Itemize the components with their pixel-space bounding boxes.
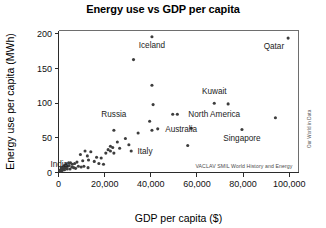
data-point <box>68 167 71 170</box>
point-label-russia: Russia <box>101 110 126 119</box>
data-point <box>112 152 115 155</box>
data-point <box>111 146 114 149</box>
data-point <box>77 165 80 168</box>
data-point <box>127 143 130 146</box>
data-point <box>118 147 121 150</box>
y-axis-title: Energy use per capita (MWh) <box>4 33 16 170</box>
data-point <box>186 144 189 147</box>
data-point <box>95 156 98 159</box>
x-axis-title: GDP per capita ($) <box>135 212 222 224</box>
x-tick-label: 40,000 <box>137 179 165 189</box>
scatter-plot: 050100150200020,00040,00060,00080,000100… <box>0 0 326 228</box>
data-point <box>130 149 133 152</box>
point-label-singapore: Singapore <box>223 134 261 143</box>
point-label-iceland: Iceland <box>139 41 166 50</box>
y-tick-label: 150 <box>37 64 52 74</box>
y-tick-label: 0 <box>47 168 52 178</box>
data-point <box>79 153 82 156</box>
data-point <box>82 165 85 168</box>
owid-credit: Our World in Data <box>307 109 312 148</box>
x-tick-label: 60,000 <box>183 179 211 189</box>
data-point <box>63 168 66 171</box>
data-point <box>171 113 174 116</box>
data-point <box>87 158 90 161</box>
y-tick-label: 200 <box>37 29 52 39</box>
data-point <box>100 156 103 159</box>
data-point <box>150 129 153 132</box>
data-point <box>86 166 89 169</box>
data-point <box>112 129 115 132</box>
point-label-australia: Australia <box>165 125 197 134</box>
data-point <box>124 137 127 140</box>
point-label-india: India <box>50 160 68 169</box>
data-point <box>287 37 290 40</box>
x-tick-label: 100,000 <box>273 179 306 189</box>
point-label-qatar: Qatar <box>264 42 285 51</box>
data-point <box>102 163 105 166</box>
data-point <box>97 162 100 165</box>
data-point <box>150 35 153 38</box>
data-point <box>137 131 140 134</box>
data-point <box>74 167 77 170</box>
data-point <box>176 113 179 116</box>
data-point <box>109 149 112 152</box>
y-tick-label: 100 <box>37 98 52 108</box>
data-point <box>81 159 84 162</box>
chart-container: Energy use vs GDP per capita 05010015020… <box>0 0 326 228</box>
data-point <box>86 154 89 157</box>
data-point <box>148 120 151 123</box>
data-point <box>152 103 155 106</box>
x-tick-label: 20,000 <box>91 179 119 189</box>
data-point <box>116 140 119 143</box>
source-attribution: VACLAV SMIL World History and Energy <box>195 163 292 169</box>
x-tick-label: 80,000 <box>229 179 257 189</box>
x-tick-label: 0 <box>56 179 61 189</box>
data-point <box>80 165 83 168</box>
data-point <box>240 128 243 131</box>
data-point <box>93 160 96 163</box>
point-label-italy: Italy <box>138 147 154 156</box>
data-point <box>156 127 159 130</box>
data-point <box>83 149 86 152</box>
data-point <box>89 150 92 153</box>
data-point <box>104 152 107 155</box>
data-point <box>58 169 61 172</box>
data-point <box>213 102 216 105</box>
data-point <box>150 84 153 87</box>
data-point <box>274 116 277 119</box>
point-label-kuwait: Kuwait <box>202 87 227 96</box>
data-point <box>227 102 230 105</box>
data-point <box>132 58 135 61</box>
y-tick-label: 50 <box>42 133 52 143</box>
point-label-north-america: North America <box>188 110 240 119</box>
